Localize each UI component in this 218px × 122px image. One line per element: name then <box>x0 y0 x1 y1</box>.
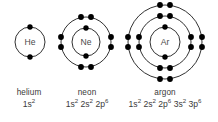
atom-argon: Ar <box>125 2 205 82</box>
argon-symbol-label: Ar <box>161 37 170 47</box>
argon-shell2-electron-4 <box>167 65 173 71</box>
argon-shell3-electron-5 <box>125 34 131 40</box>
neon-inner-electron-1 <box>83 25 88 30</box>
argon-shell2-electron-8 <box>188 44 194 50</box>
argon-shell3-electron-1 <box>157 2 163 8</box>
neon-symbol-label: Ne <box>81 37 92 47</box>
argon-shell3-electron-3 <box>157 76 163 82</box>
neon-outer-electron-1 <box>78 14 84 20</box>
atom-helium: He <box>15 24 45 59</box>
atoms-svg-canvas: He Ne Ar <box>0 0 218 122</box>
atom-neon: Ne <box>58 14 114 70</box>
argon-shell3-electron-6 <box>125 44 131 50</box>
neon-outer-electron-8 <box>108 44 114 50</box>
argon-shell2-electron-2 <box>167 13 173 19</box>
helium-electron-2 <box>27 54 32 59</box>
argon-shell1-electron-1 <box>162 24 167 29</box>
argon-shell2-electron-7 <box>188 34 194 40</box>
argon-shell3-electron-8 <box>199 44 205 50</box>
neon-outer-electron-6 <box>58 44 64 50</box>
argon-shell2-electron-1 <box>157 13 163 19</box>
argon-shell1-electron-2 <box>162 54 167 59</box>
argon-shell2-electron-6 <box>136 44 142 50</box>
electron-shell-diagram: He Ne Ar <box>0 0 218 122</box>
argon-shell3-electron-4 <box>167 76 173 82</box>
neon-inner-electron-2 <box>83 53 88 58</box>
neon-outer-electron-3 <box>78 64 84 70</box>
helium-electron-1 <box>27 24 32 29</box>
neon-outer-electron-5 <box>58 34 64 40</box>
argon-shell3-electron-2 <box>167 2 173 8</box>
argon-shell2-electron-3 <box>157 65 163 71</box>
neon-outer-electron-4 <box>88 64 94 70</box>
neon-outer-electron-2 <box>88 14 94 20</box>
neon-outer-electron-7 <box>108 34 114 40</box>
helium-symbol-label: He <box>25 37 36 47</box>
argon-shell3-electron-7 <box>199 34 205 40</box>
argon-shell2-electron-5 <box>136 34 142 40</box>
